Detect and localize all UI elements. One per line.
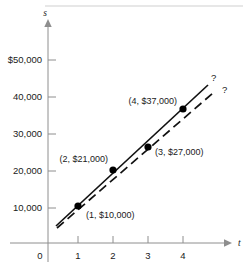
data-point-2 (109, 166, 116, 173)
data-point-4 (179, 105, 186, 112)
data-point-label-2: (2, $21,000) (59, 154, 108, 164)
x-tick-label-1: 1 (75, 250, 80, 261)
y-tick-label-30000: 30,000 (13, 128, 42, 139)
x-tick-label-0: 0 (37, 250, 42, 261)
y-tick-label-50000: $50,000 (8, 54, 42, 65)
dashed-extension-question-icon: ? (222, 84, 227, 95)
x-axis-arrowhead (224, 239, 232, 246)
x-tick-label-2: 2 (110, 250, 115, 261)
data-point-3 (144, 143, 151, 150)
x-tick-label-4: 4 (180, 250, 185, 261)
y-axis-arrowhead (44, 19, 51, 27)
data-point-label-1: (1, $10,000) (86, 210, 135, 220)
data-point-label-4: (4, $37,000) (128, 96, 177, 106)
chart-canvas: s t $50,000 40,000 30,000 20,000 10,000 … (0, 0, 248, 271)
x-tick-label-3: 3 (145, 250, 150, 261)
scatter-chart: s t $50,000 40,000 30,000 20,000 10,000 … (0, 0, 248, 271)
y-tick-label-40000: 40,000 (13, 91, 42, 102)
x-axis-label: t (238, 238, 241, 248)
data-point-1 (74, 202, 81, 209)
y-tick-label-20000: 20,000 (13, 165, 42, 176)
y-tick-label-10000: 10,000 (13, 202, 42, 213)
solid-extension-question-icon: ? (211, 72, 216, 83)
data-point-label-3: (3, $27,000) (155, 147, 204, 157)
y-axis-label: s (43, 8, 47, 18)
